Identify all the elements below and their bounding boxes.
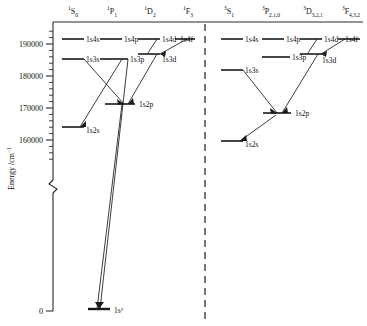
- term-symbol-1D2: 1D2: [144, 5, 156, 18]
- level-label-right-1s4f: 1s4f: [345, 35, 358, 44]
- level-label-left-1s4d: 1s4d: [162, 35, 176, 44]
- tick-label-zero: 0: [39, 307, 43, 316]
- tick-label-190000: 190000: [19, 40, 43, 49]
- level-label-left-1s4s: 1s4s: [86, 35, 99, 44]
- term-symbol-1S0: 1S0: [68, 5, 78, 18]
- diagram-canvas: 190000 180000 170000 160000 0 Energy /cm…: [0, 0, 367, 326]
- y-axis-title-text: Energy /cm: [7, 152, 16, 190]
- term-symbol-3F432: 3F4,3,2: [342, 5, 360, 18]
- term-1P1-j: 1: [114, 12, 117, 18]
- level-label-left-1s3s: 1s3s: [86, 55, 99, 64]
- term-1S0-j: 0: [75, 12, 78, 18]
- term-symbol-3S1: 3S1: [224, 5, 234, 18]
- level-label-right-1s3d: 1s3d: [322, 56, 336, 65]
- term-3S1-j: 1: [231, 12, 234, 18]
- level-label-left-1s4p: 1s4p: [124, 35, 138, 44]
- level-label-right-1s4p: 1s4p: [286, 35, 300, 44]
- term-symbol-1P1: 1P1: [107, 5, 117, 18]
- left-transitions: [80, 39, 187, 309]
- y-axis-title-sup: −1: [6, 147, 12, 153]
- tick-label-170000: 170000: [19, 104, 43, 113]
- level-label-left-1s2s: 1s2s: [86, 126, 99, 135]
- level-label-left-1s3d: 1s3d: [162, 55, 176, 64]
- level-label-right-1s4s: 1s4s: [245, 35, 258, 44]
- tick-label-180000: 180000: [19, 72, 43, 81]
- term-symbol-3D321: 3D3,2,1: [303, 5, 323, 18]
- term-symbol-1F3: 1F3: [183, 5, 193, 18]
- term-1D2-j: 2: [153, 12, 156, 18]
- term-3F432-j: 4,3,2: [349, 12, 360, 18]
- level-label-right-1s2p: 1s2p: [295, 109, 309, 118]
- level-label-left-1s3p: 1s3p: [130, 55, 144, 64]
- term-3P210-j: 2,1,0: [269, 12, 280, 18]
- term-1F3-j: 3: [190, 12, 193, 18]
- term-symbol-3P210: 3P2,1,0: [262, 5, 280, 18]
- level-label-left-1s4f: 1s4f: [180, 35, 193, 44]
- level-label-right-1s3s: 1s3s: [245, 66, 258, 75]
- right-arrowheads: [240, 51, 327, 141]
- level-label-right-1s4d: 1s4d: [324, 35, 338, 44]
- tick-label-160000: 160000: [19, 136, 43, 145]
- left-levels: [62, 39, 195, 309]
- left-arrowheads: [80, 51, 166, 309]
- term-3D321-j: 3,2,1: [312, 12, 323, 18]
- level-label-left-1s2: 1s²: [114, 306, 124, 315]
- y-axis-title: Energy /cm−1: [6, 147, 16, 190]
- major-ticks: [46, 44, 53, 311]
- level-label-right-1s3p: 1s3p: [292, 53, 306, 62]
- axis-break-icon: [49, 180, 57, 193]
- level-label-left-1s2p: 1s2p: [139, 100, 153, 109]
- energy-level-diagram: 190000 180000 170000 160000 0 Energy /cm…: [0, 0, 367, 326]
- right-levels: [221, 39, 360, 141]
- level-label-right-1s2s: 1s2s: [245, 140, 258, 149]
- axis-title-group: Energy /cm−1: [6, 147, 16, 190]
